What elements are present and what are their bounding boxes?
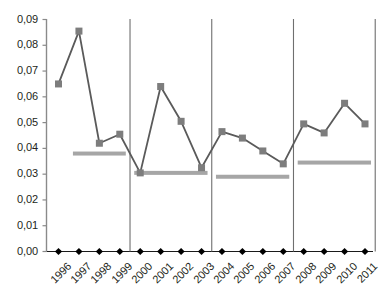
data-point-marker: [157, 83, 164, 90]
period-average-bar: [73, 152, 126, 156]
data-point-marker: [280, 160, 287, 167]
baseline-diamond-marker: [321, 248, 328, 255]
data-point-marker: [55, 80, 62, 87]
baseline-diamond-marker: [157, 248, 164, 255]
baseline-diamond-marker: [239, 248, 246, 255]
data-point-marker: [341, 100, 348, 107]
data-point-marker: [218, 128, 225, 135]
baseline-diamond-marker: [75, 248, 82, 255]
chart-container: 0,090,080,070,060,050,040,030,020,010,00…: [0, 0, 386, 305]
y-tick-label: 0,03: [4, 167, 38, 179]
baseline-diamond-marker: [300, 248, 307, 255]
y-tick-label: 0,00: [4, 245, 38, 257]
data-point-marker: [137, 169, 144, 176]
data-point-marker: [198, 164, 205, 171]
baseline-diamond-marker: [137, 248, 144, 255]
baseline-diamond-marker: [178, 248, 185, 255]
y-tick-label: 0,02: [4, 193, 38, 205]
baseline-diamond-marker: [198, 248, 205, 255]
baseline-diamond-marker: [96, 248, 103, 255]
period-average-bar: [134, 171, 207, 175]
y-tick-label: 0,04: [4, 141, 38, 153]
data-point-marker: [300, 120, 307, 127]
line-chart-plot: [0, 0, 386, 305]
y-tick-label: 0,06: [4, 90, 38, 102]
data-point-marker: [96, 140, 103, 147]
y-tick-label: 0,01: [4, 219, 38, 231]
data-point-marker: [321, 129, 328, 136]
period-separator-lines: [130, 19, 375, 252]
baseline-diamond-marker: [361, 248, 368, 255]
period-average-bars: [73, 152, 371, 179]
baseline-diamond-marker: [259, 248, 266, 255]
baseline-diamond-marker: [218, 248, 225, 255]
data-point-marker: [259, 147, 266, 154]
data-point-marker: [239, 135, 246, 142]
data-point-marker: [75, 28, 82, 35]
baseline-diamond-marker: [280, 248, 287, 255]
y-tick-label: 0,07: [4, 64, 38, 76]
y-tick-label: 0,05: [4, 116, 38, 128]
baseline-diamond-marker: [341, 248, 348, 255]
data-point-marker: [116, 131, 123, 138]
baseline-diamond-marker: [116, 248, 123, 255]
y-tick-label: 0,09: [4, 13, 38, 25]
y-tick-label: 0,08: [4, 38, 38, 50]
period-average-bar: [298, 161, 371, 165]
data-point-marker: [178, 118, 185, 125]
data-point-marker: [362, 120, 369, 127]
period-average-bar: [216, 175, 289, 179]
baseline-diamond-marker: [55, 248, 62, 255]
